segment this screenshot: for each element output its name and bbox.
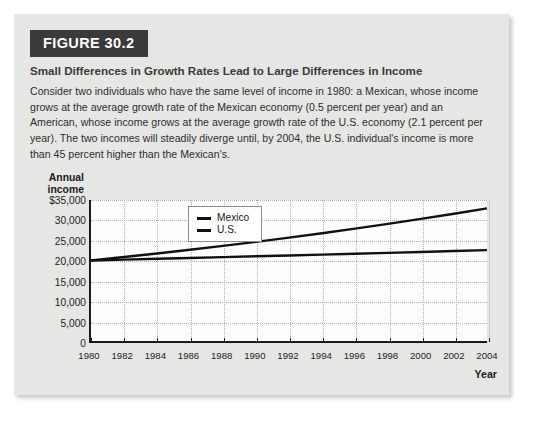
y-axis-title: Annualincome (14, 172, 84, 197)
x-axis-tick-label: 1988 (211, 350, 232, 361)
x-axis-tick-label: 1990 (244, 350, 265, 361)
legend-item: Mexico (197, 212, 249, 224)
gridline (489, 200, 490, 341)
y-axis-tick-label: 30,000 (14, 215, 86, 226)
x-axis-tick-label: 1998 (377, 350, 398, 361)
y-axis-tick-label: 5,000 (14, 317, 86, 328)
x-axis-tick-label: 1992 (277, 350, 298, 361)
y-axis-tick-label: 0 (14, 338, 86, 349)
series-lines (91, 200, 487, 341)
x-axis-tick-label: 1984 (145, 350, 166, 361)
chart: Annualincome $35,00030,00025,00020,00015… (14, 172, 509, 395)
x-axis-tick-label: 2000 (410, 350, 431, 361)
x-axis-title: Year (475, 368, 497, 380)
legend-item: U.S. (197, 224, 249, 236)
figure-badge: FIGURE 30.2 (30, 30, 148, 57)
figure-caption: Consider two individuals who have the sa… (30, 84, 492, 162)
x-axis-tick (489, 338, 490, 342)
y-axis-tick-label: 10,000 (14, 297, 86, 308)
figure-title: Small Differences in Growth Rates Lead t… (30, 64, 492, 78)
x-axis-tick-label: 1982 (111, 350, 132, 361)
y-axis-tick-label: 15,000 (14, 276, 86, 287)
figure-panel: FIGURE 30.2 Small Differences in Growth … (14, 14, 509, 395)
y-axis-tick-label: 25,000 (14, 235, 86, 246)
x-axis-tick-label: 1986 (178, 350, 199, 361)
x-axis-tick-label: 1980 (78, 350, 99, 361)
x-axis-tick-label: 1994 (310, 350, 331, 361)
x-axis-tick-label: 2002 (443, 350, 464, 361)
y-axis-tick-label: 20,000 (14, 256, 86, 267)
legend-label: Mexico (217, 213, 249, 223)
x-axis-tick-label: 1996 (344, 350, 365, 361)
y-axis-title-line: Annual (14, 172, 84, 184)
legend-label: U.S. (217, 225, 237, 235)
y-axis-tick-label: $35,000 (14, 195, 86, 206)
plot-area: MexicoU.S. (89, 200, 487, 343)
chart-legend: MexicoU.S. (188, 206, 262, 242)
legend-swatch-icon (197, 229, 211, 232)
legend-swatch-icon (197, 217, 211, 220)
x-axis-tick-label: 2004 (476, 350, 497, 361)
